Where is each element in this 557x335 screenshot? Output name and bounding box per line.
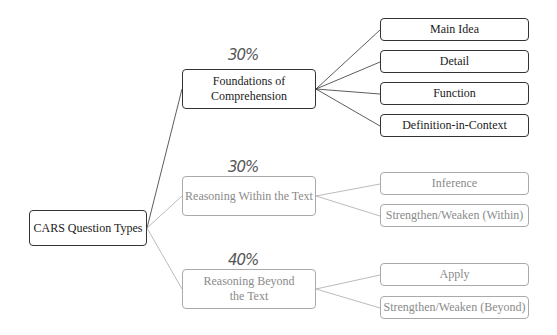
branch-label: Reasoning Beyond the Text <box>195 274 303 304</box>
branch-percent-beyond: 40% <box>228 251 258 269</box>
leaf-label: Definition-in-Context <box>402 118 507 133</box>
leaf-label: Main Idea <box>430 22 479 37</box>
branch-label: Foundations of Comprehension <box>201 74 297 104</box>
leaf-label: Strengthen/Weaken (Within) <box>386 208 524 223</box>
leaf-node-function: Function <box>380 82 529 105</box>
root-label: CARS Question Types <box>34 221 143 236</box>
leaf-node-main-idea: Main Idea <box>380 18 529 41</box>
branch-node-reasoning-beyond: Reasoning Beyond the Text <box>182 269 316 309</box>
leaf-label: Function <box>433 86 476 101</box>
leaf-node-inference: Inference <box>380 172 529 195</box>
branch-label: Reasoning Within the Text <box>185 189 313 204</box>
leaf-label: Apply <box>440 267 470 282</box>
branch-node-reasoning-within: Reasoning Within the Text <box>182 176 316 216</box>
leaf-node-apply: Apply <box>380 263 529 286</box>
leaf-node-definition-in-context: Definition-in-Context <box>380 114 529 137</box>
leaf-node-detail: Detail <box>380 50 529 73</box>
leaf-label: Detail <box>440 54 469 69</box>
branch-percent-within: 30% <box>228 158 258 176</box>
root-node: CARS Question Types <box>29 210 147 246</box>
branch-percent-foundations: 30% <box>228 46 258 64</box>
branch-node-foundations: Foundations of Comprehension <box>182 69 316 109</box>
leaf-node-strengthen-weaken-beyond: Strengthen/Weaken (Beyond) <box>380 296 529 319</box>
leaf-label: Strengthen/Weaken (Beyond) <box>384 300 526 315</box>
leaf-node-strengthen-weaken-within: Strengthen/Weaken (Within) <box>380 204 529 227</box>
leaf-label: Inference <box>432 176 477 191</box>
